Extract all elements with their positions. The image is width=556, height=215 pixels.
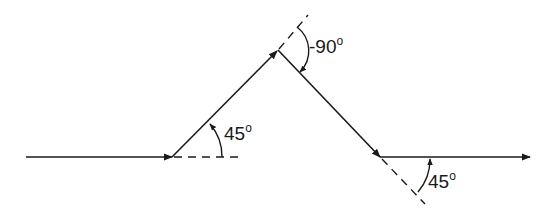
angle-arc-1: [210, 124, 222, 157]
reference-dashed-line-2: [279, 15, 308, 49]
degree-symbol-1: o: [245, 121, 252, 135]
angle-label-3: 45o: [428, 172, 456, 191]
descending-segment: [278, 50, 380, 157]
angle-label-1: 45o: [224, 124, 252, 143]
degree-symbol-3: o: [449, 169, 456, 183]
turning-path-diagram: [0, 0, 556, 215]
angle-arc-2: [297, 27, 309, 72]
angle-value-2: -90: [309, 36, 336, 57]
angle-label-2: -90o: [309, 37, 343, 56]
reference-dashed-line-3: [382, 159, 425, 204]
degree-symbol-2: o: [336, 34, 343, 48]
angle-value-1: 45: [224, 123, 245, 144]
angle-value-3: 45: [428, 171, 449, 192]
